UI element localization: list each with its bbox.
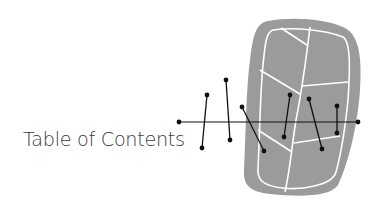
- toc-header-graphic: Table of Contents: [0, 0, 384, 211]
- decorative-leaf-icon: [0, 0, 384, 211]
- gray-blob-shape: [244, 19, 361, 196]
- page-title: Table of Contents: [23, 127, 185, 151]
